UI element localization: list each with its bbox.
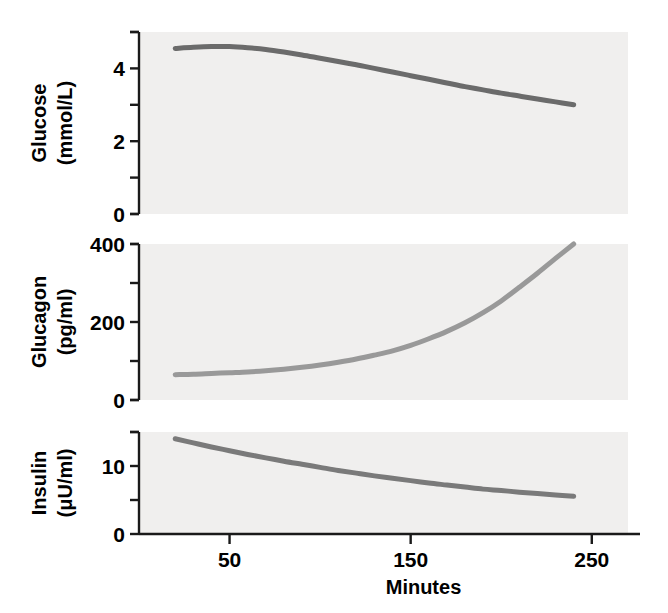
y-tick-label-glucose-4: 4	[113, 57, 125, 80]
y-axis-title-glucose-line1: (mmol/L)	[54, 81, 76, 165]
plot-area-background-glucagon	[139, 244, 628, 400]
y-axis-title-insulin-line1: (μU/ml)	[54, 449, 76, 518]
panel-insulin: 01050150250MinutesInsulin(μU/ml)	[28, 432, 640, 598]
y-axis-title-insulin-line0: Insulin	[28, 451, 50, 515]
x-tick-label-50: 50	[218, 548, 241, 571]
plot-area-background-glucose	[139, 32, 628, 214]
y-axis-title-glucose-line0: Glucose	[28, 84, 50, 163]
multi-panel-line-chart: 024Glucose(mmol/L)0200400Glucagon(pg/ml)…	[0, 0, 668, 613]
y-tick-label-glucagon-200: 200	[90, 311, 125, 334]
x-tick-label-250: 250	[574, 548, 609, 571]
y-tick-label-glucose-0: 0	[113, 203, 125, 226]
figure-container: 024Glucose(mmol/L)0200400Glucagon(pg/ml)…	[0, 0, 668, 613]
y-tick-label-insulin-0: 0	[113, 523, 125, 546]
panel-glucose: 024Glucose(mmol/L)	[28, 32, 628, 226]
y-axis-title-glucagon-line0: Glucagon	[28, 276, 50, 368]
y-axis-title-glucagon-line1: (pg/ml)	[54, 289, 76, 356]
y-tick-label-insulin-10: 10	[102, 455, 125, 478]
panel-glucagon: 0200400Glucagon(pg/ml)	[28, 233, 628, 412]
y-tick-label-glucagon-400: 400	[90, 233, 125, 256]
x-tick-label-150: 150	[393, 548, 428, 571]
x-axis-title: Minutes	[386, 576, 462, 598]
y-tick-label-glucagon-0: 0	[113, 389, 125, 412]
y-tick-label-glucose-2: 2	[113, 130, 125, 153]
